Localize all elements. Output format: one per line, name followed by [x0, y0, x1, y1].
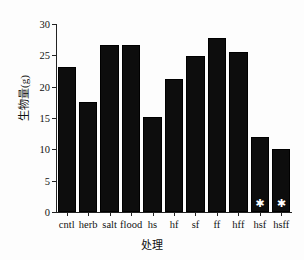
y-tick-label: 0	[45, 207, 50, 218]
x-tick-mark	[238, 212, 239, 216]
x-tick-mark	[88, 212, 89, 216]
bar-slot: ✱	[251, 24, 269, 212]
x-tick-label-hsf: hsf	[253, 219, 266, 230]
bar-series: ✱✱	[56, 24, 292, 212]
x-tick-label-cntl: cntl	[59, 219, 75, 230]
significance-asterisk-icon: ✱	[255, 200, 264, 208]
y-tick-label: 25	[40, 50, 51, 61]
plot-area: 051015202530 ✱✱ cntlherbsaltfloodhshfsff…	[56, 24, 292, 212]
bar-slot	[143, 24, 161, 212]
bar-slot	[165, 24, 183, 212]
x-tick-label-hsff: hsff	[273, 219, 289, 230]
bar-slot	[58, 24, 76, 212]
x-axis-title: 处理	[0, 236, 304, 252]
x-tick-label-hff: hff	[232, 219, 244, 230]
y-tick-mark	[52, 212, 56, 213]
x-tick-mark	[174, 212, 175, 216]
x-tick-mark	[281, 212, 282, 216]
bar-cntl[interactable]	[58, 67, 76, 212]
y-axis-title: 生物量(g)	[15, 53, 31, 143]
x-tick-mark	[110, 212, 111, 216]
x-tick-label-herb: herb	[79, 219, 98, 230]
x-tick-label-salt: salt	[102, 219, 117, 230]
x-tick-mark	[260, 212, 261, 216]
x-tick-mark	[195, 212, 196, 216]
y-tick-label: 5	[45, 175, 50, 186]
bar-hsf[interactable]: ✱	[251, 137, 269, 212]
bar-sf[interactable]	[186, 56, 204, 212]
bar-chart-figure: 生物量(g) 051015202530 ✱✱ cntlherbsaltflood…	[0, 0, 304, 260]
bar-hff[interactable]	[229, 52, 247, 212]
bar-hf[interactable]	[165, 79, 183, 212]
bar-slot	[186, 24, 204, 212]
x-tick-mark	[153, 212, 154, 216]
x-tick-label-hs: hs	[148, 219, 157, 230]
bar-flood[interactable]	[122, 45, 140, 212]
bar-slot	[229, 24, 247, 212]
x-tick-mark	[67, 212, 68, 216]
y-tick-label: 10	[40, 144, 51, 155]
x-tick-mark	[217, 212, 218, 216]
bar-slot	[100, 24, 118, 212]
y-tick-label: 20	[40, 81, 51, 92]
bar-ff[interactable]	[208, 38, 226, 212]
significance-asterisk-icon: ✱	[277, 200, 286, 208]
x-tick-label-hf: hf	[170, 219, 179, 230]
bar-slot	[79, 24, 97, 212]
bar-herb[interactable]	[79, 102, 97, 212]
bar-slot	[122, 24, 140, 212]
bar-salt[interactable]	[100, 45, 118, 212]
x-tick-label-sf: sf	[192, 219, 200, 230]
x-tick-label-ff: ff	[214, 219, 221, 230]
bar-hsff[interactable]: ✱	[272, 149, 290, 212]
x-tick-label-flood: flood	[120, 219, 142, 230]
y-tick-label: 15	[40, 113, 51, 124]
x-tick-mark	[131, 212, 132, 216]
y-tick-label: 30	[40, 19, 51, 30]
bar-hs[interactable]	[143, 117, 161, 212]
bar-slot	[208, 24, 226, 212]
bar-slot: ✱	[272, 24, 290, 212]
